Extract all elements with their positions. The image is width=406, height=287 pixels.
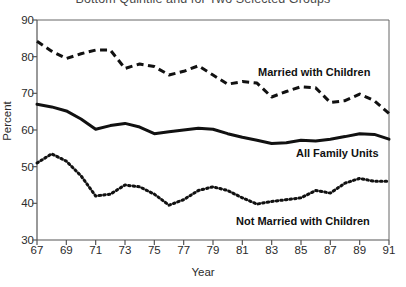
chart-container: Bottom Quintile and for Two Selected Gro… [0, 0, 406, 287]
series-line [37, 104, 389, 143]
series-label: All Family Units [296, 147, 379, 159]
series-label: Not Married with Children [236, 215, 370, 227]
chart-plot-area [0, 0, 406, 287]
series-line [37, 154, 389, 205]
series-label: Married with Children [258, 66, 370, 78]
